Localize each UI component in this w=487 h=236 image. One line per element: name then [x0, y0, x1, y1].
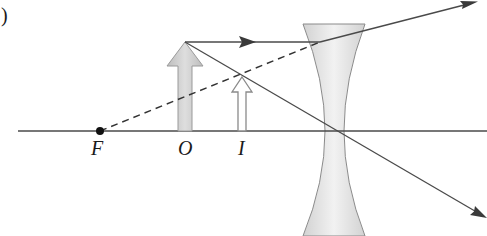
ray-diagram: ) F O I — [0, 0, 487, 236]
object-label: O — [178, 137, 192, 159]
object-arrow — [167, 42, 203, 131]
parallel-ray-refracted — [320, 4, 470, 43]
diverging-lens — [303, 24, 365, 236]
image-label: I — [237, 137, 246, 159]
part-label: ) — [1, 4, 8, 27]
construction-line-dashed — [100, 42, 320, 131]
central-ray-arrowhead — [470, 206, 487, 218]
focal-point — [96, 127, 104, 135]
image-arrow — [232, 77, 252, 131]
focal-point-label: F — [90, 137, 104, 159]
